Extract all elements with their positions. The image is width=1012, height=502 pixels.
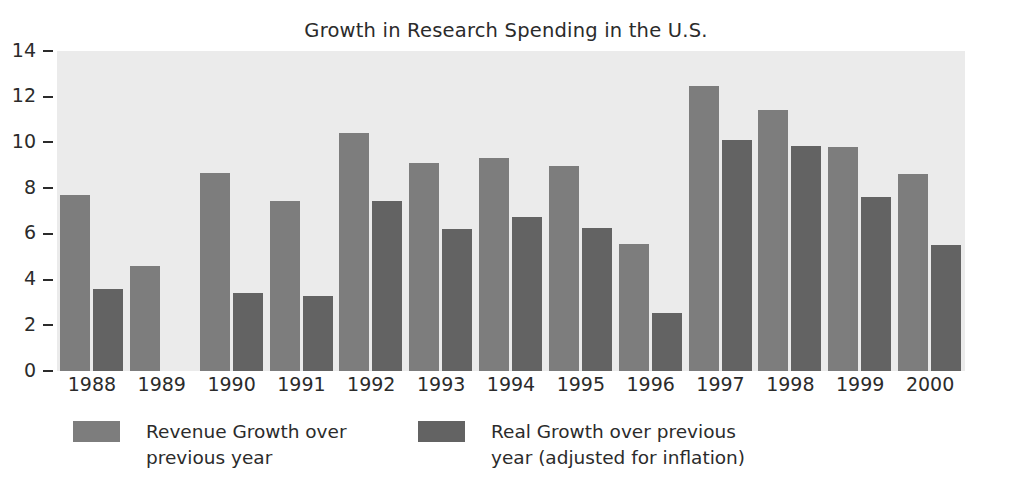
bar-group	[127, 51, 197, 371]
x-axis-tick-label: 1988	[57, 373, 127, 395]
y-axis-tick-label: 8	[24, 178, 36, 197]
y-axis-tick-label: 2	[24, 315, 36, 334]
x-axis-tick-label: 1995	[546, 373, 616, 395]
bar-group	[57, 51, 127, 371]
bars-layer	[57, 51, 965, 371]
legend-swatch	[73, 421, 120, 442]
y-axis-tick-label: 10	[12, 132, 36, 151]
x-axis-tick-label: 1999	[825, 373, 895, 395]
bar-revenue-1992	[339, 133, 369, 371]
bar-group	[336, 51, 406, 371]
bar-revenue-1988	[60, 195, 90, 371]
bar-revenue-1996	[619, 244, 649, 371]
bar-real-1991	[303, 296, 333, 371]
bar-real-1995	[582, 228, 612, 371]
x-axis-tick-label: 1996	[616, 373, 686, 395]
bar-real-1999	[861, 197, 891, 371]
y-axis: 02468101214	[0, 51, 57, 371]
x-axis: 1988198919901991199219931994199519961997…	[57, 373, 965, 401]
legend-swatch	[418, 421, 465, 442]
x-axis-tick-label: 1993	[406, 373, 476, 395]
y-axis-tick-mark	[43, 141, 53, 143]
x-axis-tick-label: 2000	[895, 373, 965, 395]
bar-group	[755, 51, 825, 371]
y-axis-tick-label: 0	[24, 361, 36, 380]
bar-real-1998	[791, 146, 821, 371]
bar-revenue-1998	[758, 110, 788, 371]
bar-revenue-2000	[898, 174, 928, 371]
bar-group	[895, 51, 965, 371]
bar-group	[546, 51, 616, 371]
bar-group	[686, 51, 756, 371]
x-axis-tick-label: 1990	[197, 373, 267, 395]
chart-title: Growth in Research Spending in the U.S.	[0, 19, 1012, 42]
bar-revenue-1995	[549, 166, 579, 371]
bar-revenue-1993	[409, 163, 439, 371]
bar-revenue-1991	[270, 201, 300, 371]
y-axis-tick-label: 6	[24, 223, 36, 242]
y-axis-tick-mark	[43, 279, 53, 281]
y-axis-tick-mark	[43, 370, 53, 372]
bar-group	[616, 51, 686, 371]
y-axis-tick-label: 12	[12, 86, 36, 105]
y-axis-tick-label: 4	[24, 269, 36, 288]
bar-revenue-1990	[200, 173, 230, 371]
y-axis-tick-mark	[43, 324, 53, 326]
x-axis-tick-label: 1994	[476, 373, 546, 395]
bar-revenue-1994	[479, 158, 509, 371]
bar-revenue-1989	[130, 266, 160, 371]
y-axis-tick-mark	[43, 96, 53, 98]
x-axis-tick-label: 1992	[336, 373, 406, 395]
x-axis-tick-label: 1991	[267, 373, 337, 395]
bar-group	[825, 51, 895, 371]
legend-entry: Real Growth over previous year (adjusted…	[418, 419, 745, 472]
y-axis-tick-label: 14	[12, 41, 36, 60]
bar-real-1990	[233, 293, 263, 371]
legend-label: Revenue Growth over previous year	[146, 419, 347, 472]
bar-real-1997	[722, 140, 752, 371]
bar-revenue-1997	[689, 86, 719, 371]
bar-real-1993	[442, 229, 472, 371]
legend-entry: Revenue Growth over previous year	[73, 419, 347, 472]
bar-group	[267, 51, 337, 371]
y-axis-tick-mark	[43, 233, 53, 235]
bar-real-1988	[93, 289, 123, 371]
y-axis-tick-mark	[43, 50, 53, 52]
bar-group	[476, 51, 546, 371]
bar-real-1996	[652, 313, 682, 371]
legend-label: Real Growth over previous year (adjusted…	[491, 419, 745, 472]
bar-real-1994	[512, 217, 542, 371]
bar-real-1992	[372, 201, 402, 371]
bar-real-2000	[931, 245, 961, 371]
x-axis-tick-label: 1997	[686, 373, 756, 395]
chart-legend: Revenue Growth over previous yearReal Gr…	[57, 419, 965, 489]
chart-figure: Growth in Research Spending in the U.S. …	[0, 0, 1012, 502]
bar-group	[406, 51, 476, 371]
bar-revenue-1999	[828, 147, 858, 371]
bar-group	[197, 51, 267, 371]
y-axis-tick-mark	[43, 187, 53, 189]
x-axis-tick-label: 1989	[127, 373, 197, 395]
plot-area	[57, 51, 965, 371]
x-axis-tick-label: 1998	[755, 373, 825, 395]
